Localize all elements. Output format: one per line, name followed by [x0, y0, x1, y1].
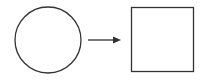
circle-node — [15, 7, 81, 73]
arrow-connector — [88, 37, 121, 44]
square-node — [132, 8, 194, 72]
diagram-canvas — [0, 0, 205, 81]
arrowhead-icon — [113, 37, 121, 44]
